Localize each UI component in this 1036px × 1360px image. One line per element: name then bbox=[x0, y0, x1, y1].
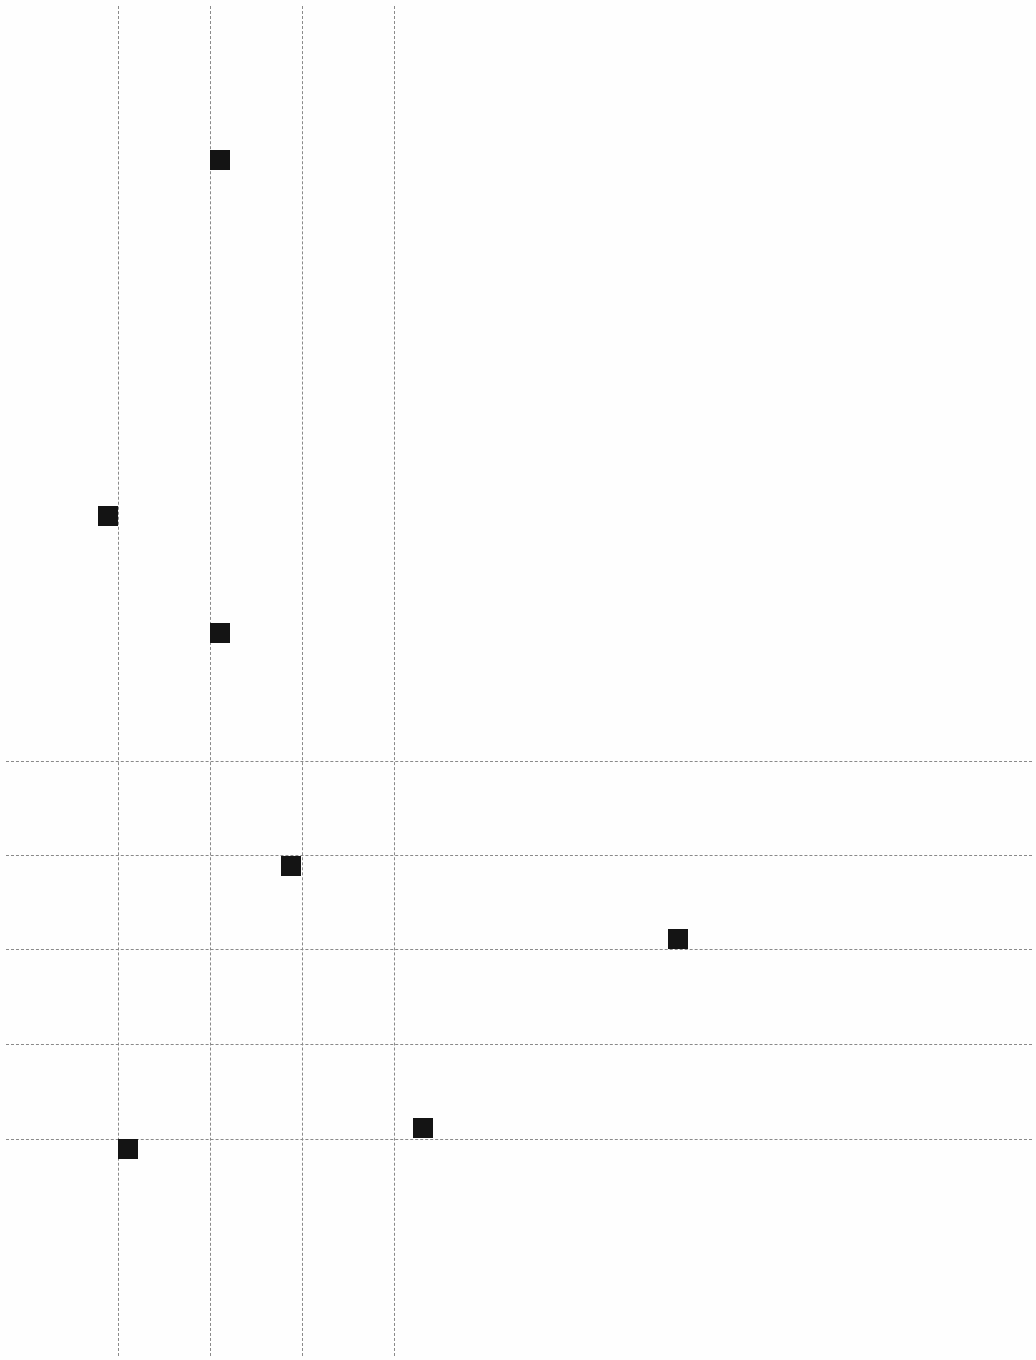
vertical-gridline bbox=[394, 6, 395, 1356]
data-point-square bbox=[281, 856, 301, 876]
vertical-gridline bbox=[210, 6, 211, 1356]
data-point-square bbox=[413, 1118, 433, 1138]
data-point-square bbox=[98, 506, 118, 526]
vertical-gridline bbox=[302, 6, 303, 1356]
horizontal-gridline bbox=[6, 1044, 1032, 1045]
data-point-square bbox=[668, 929, 688, 949]
horizontal-gridline bbox=[6, 1139, 1032, 1140]
horizontal-gridline bbox=[6, 855, 1032, 856]
data-point-square bbox=[210, 623, 230, 643]
data-point-square bbox=[210, 150, 230, 170]
data-point-square bbox=[118, 1139, 138, 1159]
horizontal-gridline bbox=[6, 761, 1032, 762]
scatter-plot-area bbox=[0, 0, 1036, 1360]
horizontal-gridline bbox=[6, 949, 1032, 950]
